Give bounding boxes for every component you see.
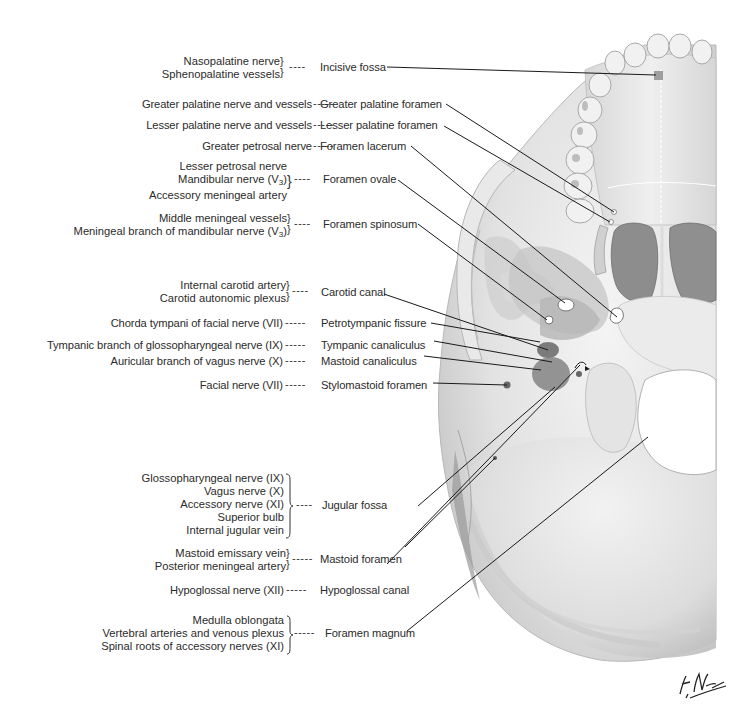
foramen-label-carotid-canal: Carotid canal [321, 286, 386, 299]
dash-connector: ----- [292, 552, 313, 564]
structure-label: Facial nerve (VII) [200, 379, 283, 392]
structure-label: Tympanic branch of glossopharyngeal nerv… [47, 339, 283, 352]
v3-text: Mandibular nerve (V3) [178, 173, 287, 185]
structure-label: Nasopalatine nerve [162, 55, 280, 68]
structures-foramen-spinosum: Middle meningeal vessels Meningeal branc… [74, 212, 287, 241]
structure-label: Hypoglossal nerve (XII) [170, 584, 284, 597]
structures-incisive-fossa: Nasopalatine nerve Sphenopalatine vessel… [162, 55, 280, 81]
structure-label: Lesser petrosal nerve [149, 160, 287, 173]
dash-connector: ----- [286, 583, 307, 595]
structure-label: Medulla oblongata [101, 614, 284, 627]
dash-connector: ---- [289, 60, 306, 72]
incisive-fossa-mark [654, 71, 663, 80]
structure-label: Greater palatine nerve and vessels [142, 98, 312, 111]
structure-label: Spinal roots of accessory nerves (XI) [101, 640, 284, 653]
structure-label: Internal jugular vein [142, 524, 284, 537]
foramina-diagram: Nasopalatine nerve Sphenopalatine vessel… [0, 0, 752, 710]
brace-symbol: } [280, 66, 284, 78]
foramen-label-petrotympanic: Petrotympanic fissure [321, 317, 426, 330]
foramen-label-ovale: Foramen ovale [323, 173, 396, 186]
structure-label: Posterior meningeal artery [155, 560, 286, 573]
structures-foramen-ovale: Lesser petrosal nerve Mandibular nerve (… [149, 160, 287, 202]
foramen-label-tympanic-canaliculus: Tympanic canaliculus [321, 339, 425, 352]
structure-label: Mastoid emissary vein [155, 547, 286, 560]
dash-connector: ----- [285, 354, 306, 366]
foramen-ovale [558, 299, 574, 311]
dash-connector: ----- [285, 316, 306, 328]
structure-label: Sphenopalatine vessels [162, 68, 280, 81]
dash-connector: ----- [285, 378, 306, 390]
brace-jugular [284, 473, 294, 539]
structure-label: Meningeal branch of mandibular nerve (V3… [74, 225, 287, 241]
structure-label: Accessory meningeal artery [149, 189, 287, 202]
dash-connector: ----- [294, 626, 315, 638]
foramen-label-lacerum: Foramen lacerum [320, 140, 406, 153]
foramen-label-greater-palatine: Greater palatine foramen [320, 98, 442, 111]
structures-mastoid-foramen: Mastoid emissary vein Posterior meningea… [155, 547, 286, 573]
structure-label: Vertebral arteries and venous plexus [101, 627, 284, 640]
brace-symbol: } [286, 558, 290, 570]
structure-label: Internal carotid artery [160, 279, 286, 292]
dash-connector: ---- [294, 217, 311, 229]
structure-label: Carotid autonomic plexus [160, 292, 286, 305]
brace-symbol: } [287, 223, 291, 235]
structure-label: Accessory nerve (XI) [142, 498, 284, 511]
structures-jugular-fossa: Glossopharyngeal nerve (IX) Vagus nerve … [142, 472, 284, 537]
foramen-lacerum [610, 308, 623, 323]
brace-symbol: } [286, 290, 290, 302]
brace-symbol: } [287, 173, 292, 189]
dash-connector: ---- [296, 498, 313, 510]
structure-label: Lesser palatine nerve and vessels [146, 119, 312, 132]
structure-label: Greater petrosal nerve [202, 140, 312, 153]
structure-label: Vagus nerve (X) [142, 485, 284, 498]
foramen-label-stylomastoid: Stylomastoid foramen [321, 379, 427, 392]
foramen-label-hypoglossal: Hypoglossal canal [320, 584, 409, 597]
foramen-label-incisive-fossa: Incisive fossa [320, 61, 386, 74]
structure-label: Glossopharyngeal nerve (IX) [142, 472, 284, 485]
dash-connector: ---- [294, 172, 311, 184]
structures-foramen-magnum: Medulla oblongata Vertebral arteries and… [101, 614, 284, 653]
structure-label: Middle meningeal vessels [74, 212, 287, 225]
structure-label: Superior bulb [142, 511, 284, 524]
dash-connector: ---- [292, 284, 309, 296]
structure-label: Chorda tympani of facial nerve (VII) [111, 317, 283, 330]
structure-label: Auricular branch of vagus nerve (X) [111, 355, 283, 368]
foramen-label-lesser-palatine: Lesser palatine foramen [320, 119, 438, 132]
structures-carotid-canal: Internal carotid artery Carotid autonomi… [160, 279, 286, 305]
dash-connector: ----- [285, 338, 306, 350]
structure-label: Mandibular nerve (V3) [149, 173, 287, 189]
foramen-label-spinosum: Foramen spinosum [323, 218, 417, 231]
foramen-label-mastoid-foramen: Mastoid foramen [320, 553, 402, 566]
foramen-label-magnum: Foramen magnum [325, 627, 415, 640]
artist-signature [672, 668, 732, 702]
foramen-label-mastoid-canaliculus: Mastoid canaliculus [321, 355, 417, 368]
foramen-label-jugular-fossa: Jugular fossa [322, 499, 387, 512]
